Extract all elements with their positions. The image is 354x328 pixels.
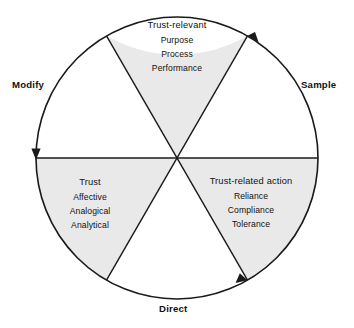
wedge-text-trust: Trust Affective Analogical Analytical xyxy=(38,177,142,230)
wedge-item-tolerance: Tolerance xyxy=(186,219,316,229)
wedge-item-compliance: Compliance xyxy=(186,205,316,215)
wedge-item-performance: Performance xyxy=(112,63,242,73)
wedge-item-affective: Affective xyxy=(38,192,142,202)
wedge-text-trust-related-action: Trust-related action Reliance Compliance… xyxy=(186,176,316,229)
wedge-item-analytical: Analytical xyxy=(38,220,142,230)
wedge-item-analogical: Analogical xyxy=(38,206,142,216)
wedge-item-purpose: Purpose xyxy=(112,35,242,45)
wedge-item-process: Process xyxy=(112,49,242,59)
wedge-heading-trust: Trust xyxy=(38,177,142,187)
wedge-heading-trust-relevant: Trust-relevant xyxy=(112,20,242,30)
wedge-heading-trust-related-action: Trust-related action xyxy=(186,176,316,186)
arc-label-direct: Direct xyxy=(159,303,187,314)
wedge-text-trust-relevant: Trust-relevant Purpose Process Performan… xyxy=(112,20,242,73)
arc-label-modify: Modify xyxy=(12,79,44,90)
arc-label-sample: Sample xyxy=(301,79,336,90)
trust-wheel-diagram: Trust-relevant Purpose Process Performan… xyxy=(0,0,354,328)
wedge-item-reliance: Reliance xyxy=(186,191,316,201)
